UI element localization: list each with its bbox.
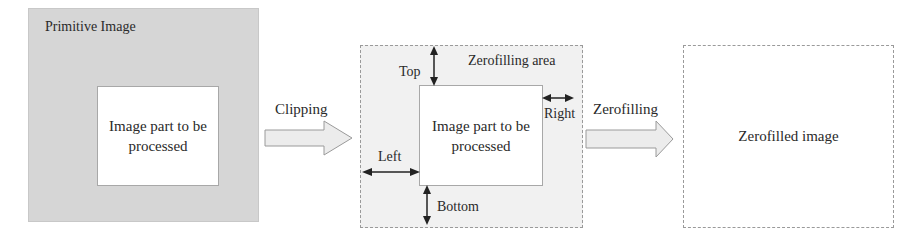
image-part-label: Image part to be processed [108,116,208,156]
image-part-box: Image part to be processed [419,85,543,186]
primitive-image-title: Primitive Image [45,19,136,35]
left-margin-label: Left [378,149,401,165]
zerofilled-image-label: Zerofilled image [738,128,838,145]
image-part-label: Image part to be processed [429,116,533,156]
zerofilling-area-panel: Zerofilling area Top Right Left Bottom I… [360,45,583,228]
top-margin-arrow-icon [428,46,440,86]
clipping-arrow-icon [264,120,354,156]
top-margin-label: Top [399,64,421,80]
right-margin-arrow-icon [542,92,574,104]
primitive-image-panel: Primitive Image Image part to be process… [28,8,259,222]
zerofilled-image-panel: Zerofilled image [683,45,894,228]
left-margin-arrow-icon [362,166,420,178]
clipping-label: Clipping [275,101,328,118]
zerofilling-area-label: Zerofilling area [468,53,555,69]
zerofilling-label: Zerofilling [593,101,658,118]
bottom-margin-arrow-icon [421,185,433,225]
zerofilling-arrow-icon [585,120,675,158]
bottom-margin-label: Bottom [437,199,479,215]
image-part-box: Image part to be processed [97,86,219,186]
right-margin-label: Right [544,106,575,122]
